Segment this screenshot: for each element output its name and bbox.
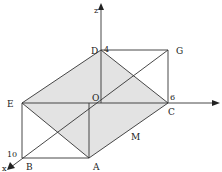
z-axis-arrow-icon [98,3,104,10]
vertex-label-a: A [92,162,100,172]
vertex-label-g: G [176,46,183,56]
z-axis-label: z [94,6,98,15]
vertex-label-m: M [131,132,140,142]
cuboid-diagram: z x D 4 G E O 6 C M 10 B A [0,0,222,172]
z-value-label: 4 [104,45,109,54]
x-axis-label: x [2,164,7,172]
y-axis-arrow-icon [212,100,220,106]
vertex-label-c: C [168,107,175,117]
vertex-label-d: D [91,46,98,56]
vertex-label-o: O [92,93,99,103]
vertex-label-e: E [7,99,14,109]
y-value-label: 6 [170,93,175,102]
vertex-label-b: B [26,162,33,172]
x-value-label: 10 [7,150,17,159]
x-axis-arrow-icon [7,162,15,170]
